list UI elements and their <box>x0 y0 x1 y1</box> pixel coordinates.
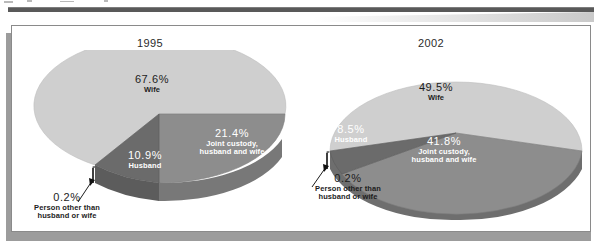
chart-title-1995: 1995 <box>137 37 163 49</box>
label-other-1995-cat-line2: husband or wife <box>14 212 120 220</box>
label-other-2002: 0.2% Person other than husband or wife <box>295 173 401 201</box>
scan-artifact <box>27 0 32 2</box>
header-wedge <box>8 12 594 22</box>
label-joint-1995: 21.4% Joint custody, husband and wife <box>176 128 288 156</box>
label-joint-1995-cat-line2: husband and wife <box>176 148 288 156</box>
label-joint-2002: 41.8% Joint custody, husband and wife <box>388 136 500 164</box>
label-husband-1995: 10.9% Husband <box>108 150 182 170</box>
label-wife-1995: 67.6% Wife <box>106 74 198 94</box>
label-wife-1995-cat: Wife <box>106 86 198 94</box>
scan-artifact <box>104 0 108 2</box>
chart-title-2002: 2002 <box>418 37 444 49</box>
scan-artifact <box>4 1 13 3</box>
label-other-2002-cat-line2: husband or wife <box>295 193 401 201</box>
label-joint-2002-cat-line2: husband and wife <box>388 156 500 164</box>
figure-page: 1995 <box>0 0 600 249</box>
scan-artifact <box>60 1 74 2</box>
label-husband-2002: 8.5% Husband <box>318 124 384 144</box>
label-husband-2002-cat: Husband <box>318 136 384 144</box>
header-rule <box>8 7 594 12</box>
label-husband-1995-cat: Husband <box>108 162 182 170</box>
label-wife-2002: 49.5% Wife <box>390 82 482 102</box>
label-other-1995: 0.2% Person other than husband or wife <box>14 192 120 220</box>
label-wife-2002-cat: Wife <box>390 94 482 102</box>
